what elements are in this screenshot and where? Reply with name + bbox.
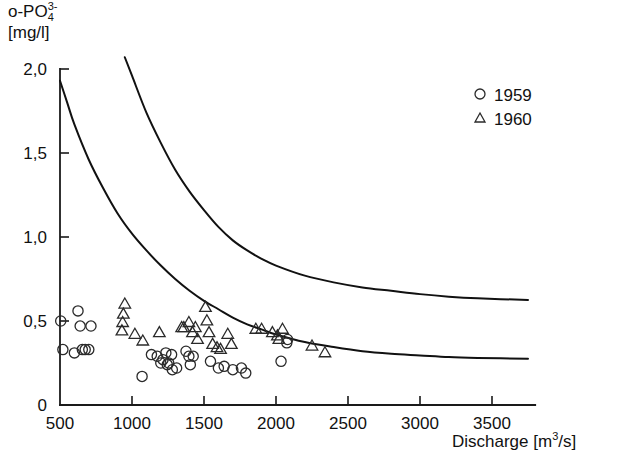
- data-points: [56, 298, 331, 382]
- data-point-1960: [137, 335, 149, 345]
- x-axis-tick-label: 2500: [329, 414, 367, 433]
- regression-curves: [60, 57, 528, 359]
- axis-tick-labels: 00,51,01,52,0500100015002000250030003500: [23, 60, 511, 433]
- y-axis-tick-label: 1,0: [23, 228, 47, 247]
- data-point-1960: [319, 347, 331, 357]
- data-point-1960: [119, 298, 131, 308]
- x-axis-tick-label: 500: [46, 414, 74, 433]
- data-point-1960: [154, 327, 166, 337]
- x-axis-tick-label: 1500: [185, 414, 223, 433]
- data-point-1960: [222, 328, 234, 338]
- y-axis-tick-label: 0: [38, 396, 47, 415]
- data-point-1959: [73, 306, 83, 316]
- chart-canvas: 00,51,01,52,0500100015002000250030003500: [0, 0, 633, 462]
- data-point-1960: [226, 338, 238, 348]
- lower-regression-curve: [60, 81, 528, 359]
- chart-page: o-PO3-4 [mg/l] Discharge [m3/s] 1959 196…: [0, 0, 633, 462]
- data-point-1959: [276, 356, 286, 366]
- x-axis-tick-label: 2000: [257, 414, 295, 433]
- data-point-1960: [201, 315, 213, 325]
- axis-ticks: [60, 69, 492, 405]
- data-point-1960: [203, 327, 215, 337]
- y-axis-tick-label: 2,0: [23, 60, 47, 79]
- data-point-1959: [75, 321, 85, 331]
- y-axis-tick-label: 1,5: [23, 144, 47, 163]
- data-point-1959: [86, 321, 96, 331]
- upper-regression-curve: [125, 57, 528, 300]
- axes: [60, 69, 535, 405]
- x-axis-tick-label: 1000: [113, 414, 151, 433]
- x-axis-tick-label: 3500: [473, 414, 511, 433]
- data-point-1960: [129, 328, 141, 338]
- x-axis-tick-label: 3000: [401, 414, 439, 433]
- data-point-1959: [137, 371, 147, 381]
- y-axis-tick-label: 0,5: [23, 312, 47, 331]
